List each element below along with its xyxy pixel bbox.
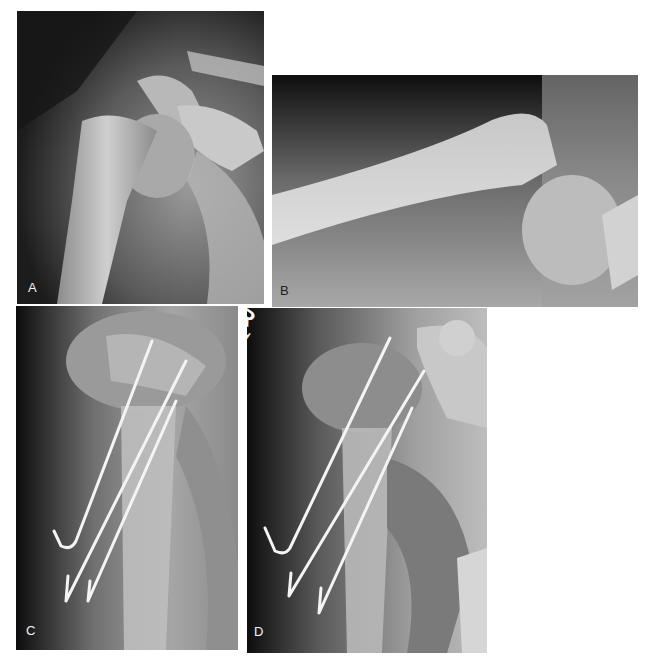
panel-d-xray: R PFH D [247, 308, 487, 653]
figure-caption [0, 659, 654, 667]
panel-b-xray: B [272, 75, 638, 307]
panel-c-xray: C [16, 306, 238, 650]
xray-image-c [16, 306, 238, 650]
panel-label-a: A [28, 280, 37, 295]
panel-label-c: C [26, 623, 35, 638]
panel-label-b: B [280, 283, 289, 298]
xray-image-b [272, 75, 638, 307]
xray-image-d [247, 308, 487, 653]
panel-a-xray: A [17, 11, 264, 304]
panel-label-d: D [254, 624, 263, 639]
xray-image-a [17, 11, 264, 304]
